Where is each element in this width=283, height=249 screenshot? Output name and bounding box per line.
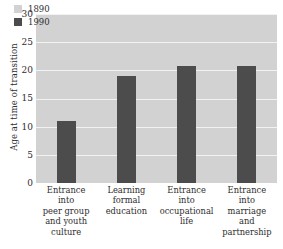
y-tick-label: 25 bbox=[14, 38, 33, 47]
y-tick-label: 0 bbox=[14, 179, 33, 188]
x-label-line: Entrance bbox=[217, 185, 277, 195]
y-tick-label: 5 bbox=[14, 151, 33, 160]
x-label-line: into bbox=[157, 195, 217, 205]
x-label-line: peer group bbox=[36, 206, 96, 216]
x-label-line: Entrance bbox=[36, 185, 96, 195]
y-tick-label: 15 bbox=[14, 94, 33, 103]
plot-area bbox=[36, 14, 277, 183]
y-tick-label: 20 bbox=[14, 66, 33, 75]
x-category-label-0: Entranceintopeer groupand youthculture bbox=[36, 184, 96, 249]
x-label-line: into bbox=[217, 195, 277, 205]
bar-1990-3[interactable] bbox=[237, 66, 256, 183]
bar-1990-2[interactable] bbox=[177, 66, 196, 183]
bar-1990-1[interactable] bbox=[117, 76, 136, 183]
x-label-line: formal bbox=[96, 195, 156, 205]
x-label-line: and youth bbox=[36, 216, 96, 226]
y-axis-tick-labels: 30 25 20 15 10 5 0 bbox=[14, 0, 33, 249]
bar-chart: Age at time of transition 30 25 20 15 10… bbox=[0, 0, 283, 249]
legend: 1890 1990 bbox=[14, 3, 84, 29]
x-label-line: culture bbox=[36, 227, 96, 237]
bar-1990-0[interactable] bbox=[57, 121, 76, 183]
x-label-line: partnership bbox=[217, 227, 277, 237]
gridline bbox=[36, 42, 277, 43]
legend-item-1990[interactable]: 1990 bbox=[14, 16, 84, 28]
x-label-line: Learning bbox=[96, 185, 156, 195]
x-label-line: into bbox=[36, 195, 96, 205]
x-label-line: marriage bbox=[217, 206, 277, 216]
legend-item-1890[interactable]: 1890 bbox=[14, 3, 84, 15]
x-category-label-3: Entranceintomarriageandpartnership bbox=[217, 184, 277, 249]
x-label-line: and bbox=[217, 216, 277, 226]
legend-swatch-icon bbox=[14, 5, 22, 13]
legend-label: 1890 bbox=[28, 5, 50, 14]
x-category-label-1: Learningformaleducation bbox=[96, 184, 156, 249]
y-tick-label: 10 bbox=[14, 123, 33, 132]
legend-swatch-icon bbox=[14, 18, 22, 26]
x-label-line: Entrance bbox=[157, 185, 217, 195]
x-axis-category-labels: Entranceintopeer groupand youthculture L… bbox=[36, 184, 277, 249]
legend-label: 1990 bbox=[28, 18, 50, 27]
x-label-line: occupational bbox=[157, 206, 217, 216]
x-label-line: education bbox=[96, 206, 156, 216]
x-category-label-2: Entranceintooccupationallife bbox=[157, 184, 217, 249]
x-label-line: life bbox=[157, 216, 217, 226]
